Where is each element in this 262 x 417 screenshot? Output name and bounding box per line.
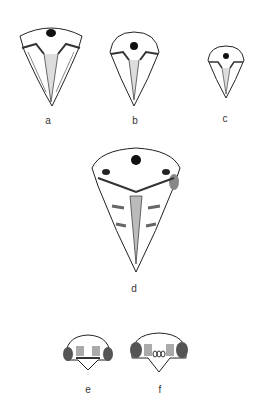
skull-c (206, 44, 246, 100)
skull-f-drawing (128, 330, 190, 374)
panel-label-a: a (38, 115, 58, 126)
skull-c-drawing (206, 44, 246, 100)
panel-label-d: d (124, 283, 144, 294)
skull-e (62, 332, 114, 372)
skull-d (90, 146, 182, 274)
skull-b-drawing (107, 30, 162, 107)
skull-e-drawing (62, 332, 114, 372)
skull-d-drawing (90, 146, 182, 274)
panel-label-c: c (215, 113, 235, 124)
panel-label-b: b (125, 115, 145, 126)
skull-a-drawing (16, 22, 86, 108)
skull-a (16, 22, 86, 108)
panel-label-e: e (78, 384, 98, 395)
skull-f (128, 330, 190, 374)
skull-b (107, 30, 162, 107)
panel-label-f: f (150, 384, 170, 395)
